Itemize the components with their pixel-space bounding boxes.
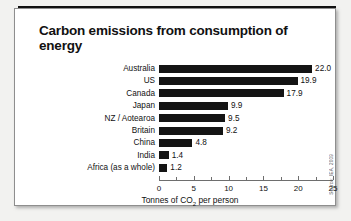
x-axis-line: [159, 180, 333, 181]
bar: [159, 164, 167, 172]
category-label: NZ / Aotearoa: [29, 113, 155, 124]
bar-value-label: 4.8: [195, 137, 206, 148]
bar-value-label: 22.0: [315, 63, 331, 74]
category-label: Africa (as a whole): [29, 162, 155, 173]
x-tick-label: 20: [288, 184, 308, 193]
category-label: Australia: [29, 63, 155, 74]
x-axis-title: Tonnes of CO2 per person: [29, 195, 351, 207]
x-tick-major: [298, 176, 299, 180]
bar: [159, 114, 225, 122]
category-label: India: [29, 150, 155, 161]
x-tick-major: [194, 176, 195, 180]
chart-title: Carbon emissions from consumption of ene…: [39, 23, 291, 53]
x-tick-major: [229, 176, 230, 180]
x-tick-label: 10: [219, 184, 239, 193]
x-tick-label: 5: [184, 184, 204, 193]
x-tick-minor: [246, 177, 247, 180]
chart-panel: Carbon emissions from consumption of ene…: [14, 8, 336, 206]
category-label: Canada: [29, 88, 155, 99]
bar-value-label: 19.9: [301, 75, 317, 86]
plot-area: Australia22.0US19.9Canada17.9Japan9.9NZ …: [29, 61, 351, 215]
x-tick-major: [263, 176, 264, 180]
bar-value-label: 9.5: [228, 113, 239, 124]
chart-figure: Carbon emissions from consumption of ene…: [0, 0, 351, 221]
x-tick-minor: [211, 177, 212, 180]
bar-value-label: 17.9: [287, 88, 303, 99]
x-tick-minor: [281, 177, 282, 180]
bar-value-label: 9.2: [226, 125, 237, 136]
bar-value-label: 9.9: [231, 100, 242, 111]
x-tick-label: 15: [253, 184, 273, 193]
bar: [159, 151, 169, 159]
bar: [159, 65, 312, 73]
bar: [159, 89, 284, 97]
x-tick-label: 0: [149, 184, 169, 193]
bar: [159, 102, 228, 110]
bar-value-label: 1.4: [172, 150, 183, 161]
category-label: Britain: [29, 125, 155, 136]
x-tick-major: [159, 176, 160, 180]
bar: [159, 77, 298, 85]
category-label: China: [29, 137, 155, 148]
bar: [159, 127, 223, 135]
x-tick-minor: [316, 177, 317, 180]
bar-value-label: 1.2: [170, 162, 181, 173]
x-tick-minor: [176, 177, 177, 180]
category-label: Japan: [29, 100, 155, 111]
bar: [159, 139, 192, 147]
source-credit: Source: IEA, 2009: [329, 154, 334, 195]
category-label: US: [29, 75, 155, 86]
